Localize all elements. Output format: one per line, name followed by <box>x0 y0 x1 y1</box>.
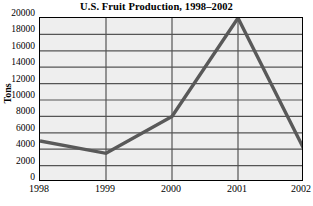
x-tick-label: 2000 <box>149 183 193 194</box>
y-tick-label: 10000 <box>0 91 35 101</box>
plot-svg <box>40 18 303 181</box>
y-tick-label: 20000 <box>0 9 35 19</box>
y-tick-label: 16000 <box>0 42 35 52</box>
plot-area <box>39 17 303 181</box>
y-tick-label: 0 <box>0 173 35 183</box>
x-axis-tick-labels: 1998 1999 2000 2001 2002 <box>39 183 303 197</box>
y-tick-label: 12000 <box>0 75 35 85</box>
x-tick-label: 1998 <box>17 183 61 194</box>
x-tick-label: 1999 <box>83 183 127 194</box>
x-tick-label: 2001 <box>215 183 259 194</box>
y-tick-label: 6000 <box>0 124 35 134</box>
y-tick-label: 4000 <box>0 140 35 150</box>
y-tick-label: 2000 <box>0 157 35 167</box>
y-axis-tick-labels: 20000 18000 16000 14000 12000 10000 8000… <box>0 14 37 181</box>
x-tick-label: 2002 <box>279 183 313 194</box>
fruit-production-line-chart: U.S. Fruit Production, 1998–2002 Tons 20… <box>0 0 313 206</box>
y-tick-label: 8000 <box>0 108 35 118</box>
y-tick-label: 18000 <box>0 26 35 36</box>
chart-title: U.S. Fruit Production, 1998–2002 <box>0 1 313 12</box>
y-tick-label: 14000 <box>0 58 35 68</box>
